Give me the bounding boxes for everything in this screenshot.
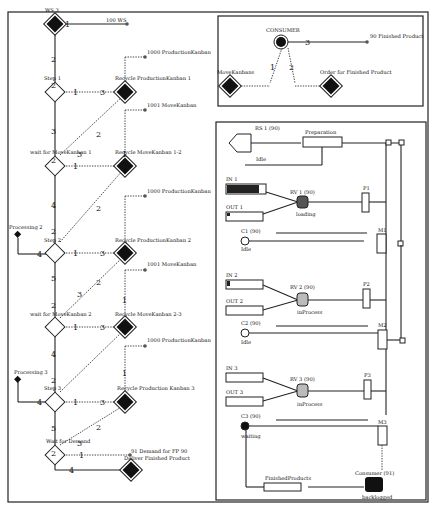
svg-text:3: 3	[100, 323, 105, 332]
svg-text:Recycle ProductionKanban 2: Recycle ProductionKanban 2	[115, 237, 191, 244]
svg-text:Recycle MoveKanban 2-3: Recycle MoveKanban 2-3	[115, 311, 182, 318]
svg-text:2: 2	[96, 130, 101, 139]
svg-text:OUT 3: OUT 3	[226, 389, 243, 395]
svg-text:4: 4	[37, 250, 42, 259]
svg-text:3: 3	[100, 249, 105, 258]
simulation-panel: RS 1 (90) Preparation Idle IN 1 OUT 1 RV…	[226, 125, 405, 501]
svg-text:Processing 2: Processing 2	[9, 224, 43, 231]
svg-text:1: 1	[73, 162, 78, 171]
svg-text:RV 1 (90): RV 1 (90)	[290, 189, 315, 195]
svg-text:1: 1	[122, 296, 127, 305]
svg-text:IN 2: IN 2	[226, 272, 238, 278]
svg-text:1: 1	[73, 249, 78, 258]
svg-text:2: 2	[289, 63, 294, 72]
svg-text:loading: loading	[296, 211, 316, 218]
svg-text:1: 1	[270, 63, 275, 72]
svg-text:4: 4	[51, 201, 56, 210]
svg-text:P1: P1	[363, 185, 370, 191]
svg-text:2: 2	[51, 449, 56, 458]
svg-text:OUT 2: OUT 2	[226, 298, 243, 304]
svg-text:Preparation: Preparation	[305, 129, 337, 136]
svg-text:1001 MoveKanban: 1001 MoveKanban	[147, 261, 197, 267]
svg-text:inProcess: inProcess	[297, 309, 323, 315]
svg-text:waiting: waiting	[241, 433, 261, 440]
svg-text:1: 1	[122, 369, 127, 378]
svg-text:RS 1 (90): RS 1 (90)	[255, 125, 280, 131]
svg-text:Idle: Idle	[241, 339, 251, 345]
svg-text:5: 5	[51, 424, 56, 433]
consumer-net-frame	[218, 16, 423, 106]
svg-text:3: 3	[77, 439, 82, 448]
left-petri-net: WS 3 100 WS 1000 ProductionKanban Step 1…	[9, 7, 211, 481]
svg-text:2: 2	[51, 301, 56, 310]
svg-text:3: 3	[305, 38, 310, 47]
svg-text:Idle: Idle	[256, 156, 266, 162]
svg-text:1: 1	[73, 88, 78, 97]
svg-text:3: 3	[77, 290, 82, 299]
svg-text:2: 2	[51, 376, 56, 385]
svg-text:2: 2	[96, 278, 101, 287]
svg-text:IN 1: IN 1	[226, 176, 238, 182]
svg-text:3: 3	[51, 127, 56, 136]
kanban-model-figure: WS 3 100 WS 1000 ProductionKanban Step 1…	[0, 0, 433, 519]
svg-text:1000 ProductionKanban: 1000 ProductionKanban	[147, 188, 211, 194]
svg-text:Recycle ProductionKanban 1: Recycle ProductionKanban 1	[115, 75, 191, 82]
svg-text:1000 ProductionKanban: 1000 ProductionKanban	[147, 337, 211, 343]
svg-text:C3 (90): C3 (90)	[241, 413, 261, 419]
svg-text:2: 2	[51, 227, 56, 236]
svg-text:3: 3	[77, 150, 82, 159]
svg-text:1: 1	[65, 20, 70, 29]
svg-text:Consumer (91): Consumer (91)	[355, 470, 394, 476]
svg-text:1: 1	[73, 323, 78, 332]
svg-text:backlogged: backlogged	[362, 494, 393, 501]
svg-text:M3: M3	[378, 419, 387, 425]
svg-text:WS 3: WS 3	[45, 7, 59, 13]
svg-text:3: 3	[100, 398, 105, 407]
svg-text:4: 4	[51, 350, 56, 359]
svg-text:Processing 3: Processing 3	[14, 369, 48, 376]
svg-text:100 WS: 100 WS	[106, 17, 127, 23]
svg-text:C2 (90): C2 (90)	[241, 320, 261, 326]
svg-text:2: 2	[96, 204, 101, 213]
svg-text:RV 3 (90): RV 3 (90)	[290, 376, 315, 382]
svg-text:1: 1	[122, 150, 127, 159]
svg-text:Deliver Finished Product: Deliver Finished Product	[124, 455, 191, 461]
svg-text:3: 3	[100, 88, 105, 97]
svg-text:RV 2 (90): RV 2 (90)	[290, 284, 315, 290]
svg-text:OUT 1: OUT 1	[226, 204, 243, 210]
svg-text:IN 3: IN 3	[226, 365, 238, 371]
svg-text:MoveKanbans: MoveKanbans	[217, 69, 254, 75]
svg-text:2: 2	[51, 55, 56, 64]
svg-text:Recycle Production Kanban 3: Recycle Production Kanban 3	[117, 385, 195, 392]
svg-text:CONSUMER: CONSUMER	[266, 27, 301, 33]
svg-text:wait for MoveKanban 2: wait for MoveKanban 2	[30, 311, 92, 317]
svg-text:FinishedProducts: FinishedProducts	[265, 475, 311, 481]
svg-text:C1 (90): C1 (90)	[241, 228, 261, 234]
svg-text:M2: M2	[378, 322, 387, 328]
svg-text:M1: M1	[378, 227, 387, 233]
svg-text:1000 ProductionKanban: 1000 ProductionKanban	[147, 49, 211, 55]
svg-text:91 Demand for FP 90: 91 Demand for FP 90	[131, 448, 187, 454]
consumer-petri-net: CONSUMER 90 Finished Product MoveKanbans…	[217, 27, 424, 97]
svg-text:90 Finished Product: 90 Finished Product	[370, 33, 424, 39]
svg-text:P3: P3	[364, 372, 371, 378]
svg-text:2: 2	[96, 423, 101, 432]
svg-text:Step 2: Step 2	[44, 237, 61, 244]
svg-text:1: 1	[73, 398, 78, 407]
svg-text:2: 2	[51, 156, 56, 165]
svg-text:5: 5	[51, 274, 56, 283]
svg-text:P2: P2	[363, 281, 370, 287]
svg-text:Wait for Demand: Wait for Demand	[46, 438, 91, 444]
svg-text:Order for Finished Product: Order for Finished Product	[320, 69, 392, 75]
svg-text:1001 MoveKanban: 1001 MoveKanban	[147, 102, 197, 108]
svg-text:Idle: Idle	[241, 246, 251, 252]
svg-text:1: 1	[79, 451, 84, 460]
svg-text:wait for MoveKanban 1: wait for MoveKanban 1	[30, 149, 92, 155]
svg-text:4: 4	[69, 466, 74, 475]
svg-text:inProcess: inProcess	[297, 401, 323, 407]
svg-text:2: 2	[51, 81, 56, 90]
svg-text:4: 4	[37, 398, 42, 407]
svg-text:Step 3: Step 3	[44, 385, 61, 392]
